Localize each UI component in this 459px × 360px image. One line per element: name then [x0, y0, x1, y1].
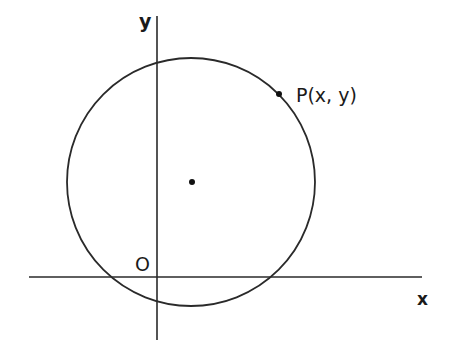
x-axis-label: x: [417, 289, 428, 309]
center-point: [189, 179, 195, 185]
point-p: [276, 91, 282, 97]
origin-label: O: [135, 253, 150, 275]
y-axis-label: y: [139, 10, 152, 32]
point-p-label: P(x, y): [296, 84, 357, 106]
diagram-canvas: y x O P(x, y): [0, 0, 459, 360]
